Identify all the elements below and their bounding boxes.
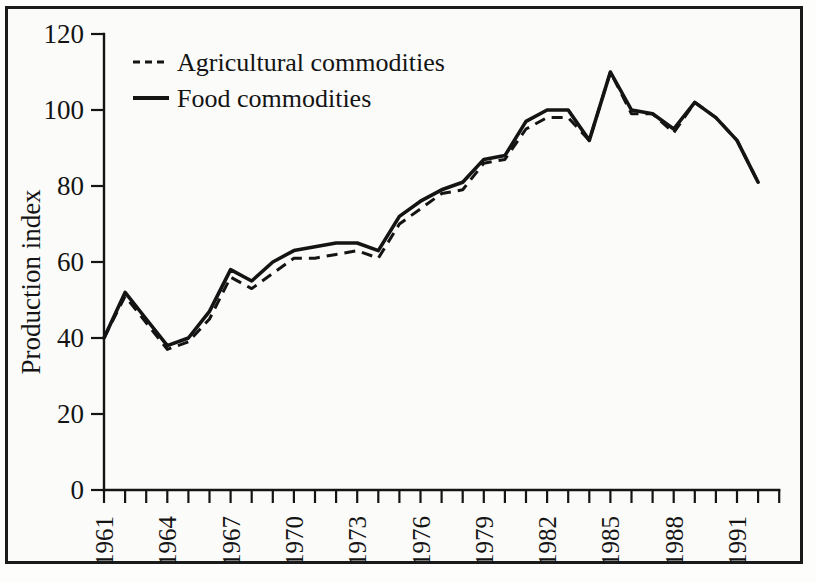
x-tick-label: 1973 bbox=[344, 516, 371, 566]
figure-container: 020406080100120 196119641967197019731976… bbox=[0, 0, 816, 582]
x-tick-label: 1976 bbox=[408, 516, 435, 566]
y-tick-label: 60 bbox=[57, 247, 84, 277]
y-tick-label: 100 bbox=[44, 95, 85, 125]
x-tick-label: 1985 bbox=[597, 516, 624, 566]
series-lines bbox=[104, 72, 758, 349]
x-tick-label: 1967 bbox=[218, 516, 245, 566]
y-axis-title: Production index bbox=[16, 189, 46, 375]
x-tick-label: 1991 bbox=[724, 516, 751, 566]
y-tick-label: 40 bbox=[57, 323, 84, 353]
x-tick-label: 1961 bbox=[91, 516, 118, 566]
series-line-dashed bbox=[104, 72, 758, 349]
legend-label: Agricultural commodities bbox=[177, 48, 445, 77]
legend-label: Food commodities bbox=[177, 84, 371, 113]
x-tick-label: 1988 bbox=[661, 516, 688, 566]
x-tick-label: 1964 bbox=[154, 516, 181, 567]
line-chart: 020406080100120 196119641967197019731976… bbox=[0, 0, 816, 582]
x-tick-label: 1982 bbox=[534, 516, 561, 566]
y-axis: 020406080100120 bbox=[44, 19, 105, 505]
x-axis: 1961196419671970197319761979198219851988… bbox=[91, 490, 779, 566]
y-tick-label: 20 bbox=[57, 399, 84, 429]
y-tick-label: 0 bbox=[71, 475, 85, 505]
series-line-solid bbox=[104, 72, 758, 346]
y-tick-label: 80 bbox=[57, 171, 84, 201]
chart-legend: Agricultural commoditiesFood commodities bbox=[133, 48, 445, 113]
x-tick-label: 1970 bbox=[281, 516, 308, 566]
y-tick-label: 120 bbox=[44, 19, 85, 49]
x-tick-label: 1979 bbox=[471, 516, 498, 566]
